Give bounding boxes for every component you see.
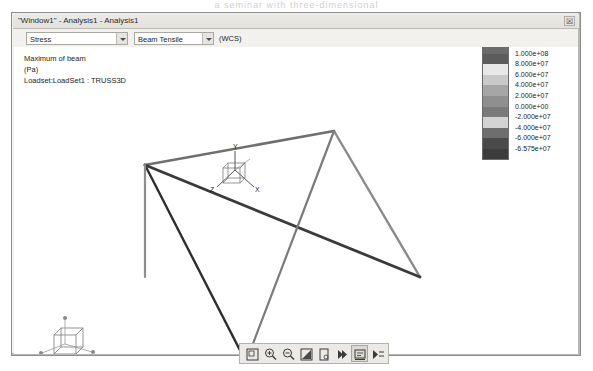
graphics-viewport[interactable]: Maximum of beam (Pa) Loadset:LoadSet1 : … bbox=[14, 47, 578, 354]
coordinate-triad: Y X Z bbox=[210, 143, 260, 193]
truss-member[interactable] bbox=[246, 131, 334, 354]
truss-members bbox=[145, 131, 420, 354]
truss-member[interactable] bbox=[334, 131, 420, 277]
query-icon[interactable] bbox=[351, 345, 368, 362]
close-icon[interactable]: ☒ bbox=[564, 16, 575, 26]
component-dropdown-value: Beam Tensile bbox=[138, 35, 183, 44]
chevron-down-icon[interactable] bbox=[202, 33, 213, 44]
animate-icon[interactable] bbox=[333, 345, 350, 362]
view-toolbar[interactable] bbox=[239, 343, 389, 364]
refit-icon[interactable] bbox=[297, 345, 314, 362]
repaint-icon[interactable] bbox=[315, 345, 332, 362]
component-dropdown[interactable]: Beam Tensile bbox=[134, 32, 214, 45]
triad-y-label: Y bbox=[233, 143, 238, 150]
truss-model-drawing[interactable]: Y X Z bbox=[14, 47, 578, 354]
truss-member[interactable] bbox=[145, 165, 420, 277]
triad-z-label: Z bbox=[210, 186, 215, 193]
truss-member[interactable] bbox=[145, 165, 246, 354]
result-controls: Stress Beam Tensile (WCS) bbox=[14, 30, 578, 47]
coordinate-system-label: (WCS) bbox=[219, 34, 242, 43]
scanned-page-header: a seminar with three-dimensional bbox=[0, 0, 593, 12]
screenshot-root: a seminar with three-dimensional "Window… bbox=[0, 0, 593, 371]
quantity-dropdown[interactable]: Stress bbox=[26, 32, 128, 45]
analysis-window: "Window1" - Analysis1 - Analysis1 ☒ Stre… bbox=[11, 12, 581, 356]
window-title: "Window1" - Analysis1 - Analysis1 bbox=[18, 16, 138, 25]
window-titlebar[interactable]: "Window1" - Analysis1 - Analysis1 ☒ bbox=[13, 14, 579, 29]
zoom-in-icon[interactable] bbox=[261, 345, 278, 362]
chevron-down-icon[interactable] bbox=[116, 33, 127, 44]
quantity-dropdown-value: Stress bbox=[30, 35, 51, 44]
dynamic-query-icon[interactable] bbox=[369, 345, 386, 362]
view-orientation-cube[interactable] bbox=[39, 316, 95, 354]
truss-member[interactable] bbox=[145, 131, 334, 165]
triad-x-label: X bbox=[255, 186, 260, 193]
zoom-out-icon[interactable] bbox=[279, 345, 296, 362]
zoom-box-icon[interactable] bbox=[243, 345, 260, 362]
